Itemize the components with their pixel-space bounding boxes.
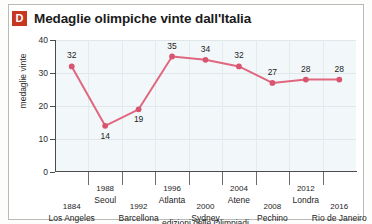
data-point-label: 28 xyxy=(301,64,310,74)
x-label-year: 2016 xyxy=(307,202,371,213)
data-point-label: 14 xyxy=(100,131,109,141)
data-point-marker xyxy=(269,80,275,86)
data-point-label: 34 xyxy=(201,44,210,54)
data-point-label: 19 xyxy=(134,114,143,124)
data-point-label: 32 xyxy=(234,50,243,60)
figure-panel: D Medaglie olimpiche vinte dall'Italia m… xyxy=(0,0,372,224)
data-point-label: 28 xyxy=(335,64,344,74)
data-point-marker xyxy=(236,64,242,70)
data-point-marker xyxy=(203,57,209,63)
data-point-marker xyxy=(69,64,75,70)
figure-header: D Medaglie olimpiche vinte dall'Italia xyxy=(12,8,360,28)
data-point-marker xyxy=(336,77,342,83)
section-badge: D xyxy=(12,11,27,26)
x-axis-title: edizioni delle Olimpiadi xyxy=(55,218,356,224)
data-point-label: 32 xyxy=(67,50,76,60)
data-point-label: 27 xyxy=(268,67,277,77)
page-title: Medaglie olimpiche vinte dall'Italia xyxy=(34,11,251,26)
x-label-year: 2012 xyxy=(274,184,338,195)
x-label-year: 2004 xyxy=(207,184,271,195)
x-label-year: 1988 xyxy=(73,184,137,195)
data-point-marker xyxy=(169,54,175,60)
data-point-label: 35 xyxy=(167,41,176,51)
data-point-marker xyxy=(102,123,108,129)
data-point-marker xyxy=(136,106,142,112)
chart-container: medaglie vinte 010203040 321419353432272… xyxy=(12,32,358,218)
x-label-year: 1996 xyxy=(140,184,204,195)
data-point-marker xyxy=(303,77,309,83)
series-line xyxy=(12,32,358,182)
series-polyline xyxy=(72,57,340,126)
